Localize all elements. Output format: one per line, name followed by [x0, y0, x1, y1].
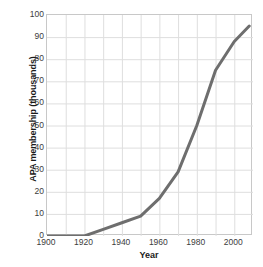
x-axis-title: Year	[46, 250, 252, 260]
y-tick-label: 40	[4, 143, 44, 152]
y-tick-label: 30	[4, 165, 44, 174]
y-tick-label: 100	[4, 10, 44, 19]
x-tick-label: 1920	[63, 238, 103, 247]
y-tick-label: 90	[4, 32, 44, 41]
y-axis-title: APA membership (thousands)	[28, 24, 38, 214]
x-tick-label: 1960	[138, 238, 178, 247]
y-tick-label: 10	[4, 209, 44, 218]
x-tick-label: 1980	[176, 238, 216, 247]
x-tick-label: 2000	[213, 238, 253, 247]
x-tick-label: 1940	[101, 238, 141, 247]
data-series-line	[47, 15, 253, 236]
y-tick-label: 60	[4, 98, 44, 107]
y-tick-label: 0	[4, 231, 44, 240]
y-tick-label: 80	[4, 54, 44, 63]
y-tick-label: 50	[4, 121, 44, 130]
y-tick-label: 20	[4, 187, 44, 196]
x-tick-label: 1900	[26, 238, 66, 247]
chart-container: APA membership (thousands) 0102030405060…	[0, 0, 263, 267]
y-tick-label: 70	[4, 76, 44, 85]
plot-area	[46, 14, 252, 235]
